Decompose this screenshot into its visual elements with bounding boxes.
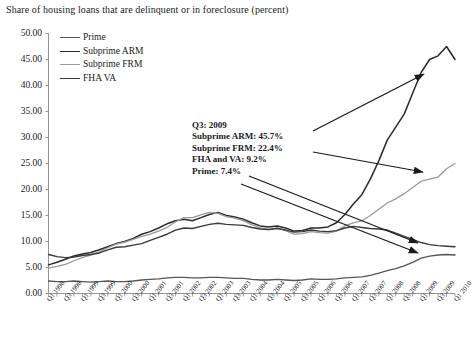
legend-swatch-icon — [60, 64, 80, 65]
legend-item: Prime — [60, 31, 143, 45]
series-line-fha-va — [49, 223, 456, 257]
legend-item: Subprime FRM — [60, 58, 143, 72]
y-axis-tick-label: 40.00 — [2, 81, 42, 91]
y-axis-tick-label: 10.00 — [2, 237, 42, 247]
legend-label: FHA VA — [83, 74, 116, 84]
legend-swatch-icon — [60, 37, 80, 38]
y-axis-tick-label: 30.00 — [2, 133, 42, 143]
legend-label: Subprime FRM — [83, 60, 142, 70]
series-line-subprime-frm — [49, 164, 456, 269]
legend-item: FHA VA — [60, 72, 143, 86]
legend-label: Prime — [83, 33, 106, 43]
y-axis-tick-label: 25.00 — [2, 159, 42, 169]
annotation-line: Prime: 7.4% — [192, 166, 283, 177]
y-axis-tick-label: 50.00 — [2, 29, 42, 39]
legend-swatch-icon — [60, 51, 80, 52]
annotation-line: Q3: 2009 — [192, 120, 283, 131]
y-axis-tick-label: 15.00 — [2, 211, 42, 221]
annotation-callout-arrow — [313, 152, 423, 172]
series-line-prime — [49, 255, 456, 283]
y-axis-tick-label: 0.00 — [2, 289, 42, 299]
y-axis-tick-label: 20.00 — [2, 185, 42, 195]
chart-legend: PrimeSubprime ARMSubprime FRMFHA VA — [60, 31, 143, 85]
annotation-callout-arrow — [249, 176, 418, 243]
legend-item: Subprime ARM — [60, 45, 143, 59]
y-axis-tick-label: 35.00 — [2, 107, 42, 117]
legend-label: Subprime ARM — [83, 47, 143, 57]
y-axis-tick-label: 45.00 — [2, 55, 42, 65]
legend-swatch-icon — [60, 78, 80, 79]
annotation-callout-arrow — [313, 74, 424, 131]
annotation-callout-arrow — [241, 184, 418, 253]
y-axis-tick-label: 5.00 — [2, 263, 42, 273]
annotation-line: Subprime ARM: 45.7% — [192, 131, 283, 142]
chart-annotation: Q3: 2009Subprime ARM: 45.7%Subprime FRM:… — [192, 120, 283, 177]
annotation-line: FHA and VA: 9.2% — [192, 154, 283, 165]
annotation-line: Subprime FRM: 22.4% — [192, 143, 283, 154]
